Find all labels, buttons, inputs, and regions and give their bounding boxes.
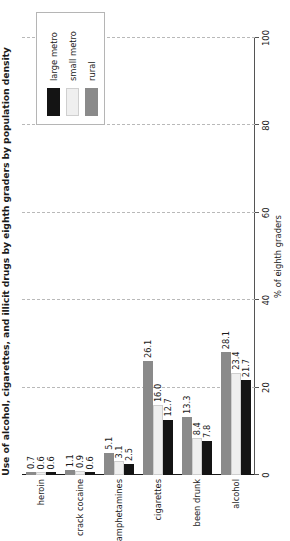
legend-item-small-metro: small metro [63,21,82,116]
legend-swatch-icon-large-metro [47,88,60,116]
axis-tick-mark [255,387,259,388]
legend-item-large-metro: large metro [44,21,63,116]
bar-value-label: 5.1 [105,437,113,450]
bar-value-label: 12.7 [164,398,172,416]
axis-tick-label: 0 [261,472,271,477]
axis-tick-label: 100 [261,30,271,46]
bar-value-label: 13.3 [183,396,191,414]
category-label-crack-cocaine: crack cocaine [75,479,85,536]
bar-value-label: 0.6 [86,456,94,469]
bar-alcohol-rural [221,352,231,475]
axis-tick-mark [255,37,259,38]
chart-title: Use of alcohol, cigarettes, and illicit … [0,0,11,523]
axis-tick-label: 40 [261,295,271,306]
bar-value-label: 28.1 [221,331,229,349]
bar-value-label: 0.6 [47,456,55,469]
bar-been-drunk-large-metro [202,441,212,475]
bar-value-label: 2.5 [125,448,133,461]
axis-tick-mark [255,212,259,213]
gridline [22,299,255,300]
bar-amphetamines-large-metro [124,464,134,475]
category-label-cigarettes: cigarettes [153,479,163,520]
bar-value-label: 26.1 [144,340,152,358]
bar-crack-cocaine-large-metro [85,472,95,475]
category-axis: alcoholbeen drunkcigarettesamphetaminesc… [22,479,255,523]
axis-tick-mark [255,124,259,125]
legend-item-rural: rural [82,21,101,116]
legend-label-small-metro: small metro [68,31,78,81]
bar-heroin-small-metro [36,472,46,475]
legend-label-large-metro: large metro [49,32,59,81]
axis-tick-label: 20 [261,382,271,393]
bar-value-label: 0.9 [76,455,84,468]
bar-cigarettes-rural [143,361,153,475]
bar-amphetamines-rural [104,453,114,475]
bar-crack-cocaine-rural [65,470,75,475]
bar-been-drunk-small-metro [192,438,202,475]
bar-amphetamines-small-metro [114,461,124,475]
bar-been-drunk-rural [182,417,192,475]
legend-swatch-icon-small-metro [66,88,79,116]
category-label-been-drunk: been drunk [192,479,202,526]
category-label-alcohol: alcohol [231,479,241,509]
legend-label-rural: rural [87,61,97,81]
legend-swatch-icon-rural [85,88,98,116]
bar-value-label: 3.1 [115,445,123,458]
bar-value-label: 16.0 [154,384,162,402]
value-axis: % of eighth graders 020406080100 [255,38,289,475]
category-label-amphetamines: amphetamines [114,479,124,541]
chart-legend: large metro small metro rural [36,12,105,125]
bar-heroin-large-metro [46,472,56,475]
bar-value-label: 0.6 [37,456,45,469]
bar-alcohol-large-metro [241,380,251,475]
bar-value-label: 1.1 [66,454,74,467]
category-label-heroin: heroin [36,479,46,505]
bar-value-label: 0.7 [27,456,35,469]
axis-tick-mark [255,299,259,300]
bar-crack-cocaine-small-metro [75,471,85,475]
bar-cigarettes-large-metro [163,420,173,475]
gridline [22,212,255,213]
bar-cigarettes-small-metro [153,405,163,475]
bar-alcohol-small-metro [231,373,241,475]
axis-tick-label: 80 [261,120,271,131]
bar-value-label: 8.4 [193,422,201,435]
axis-tick-label: 60 [261,207,271,218]
bar-value-label: 23.4 [231,352,239,370]
bar-value-label: 21.7 [241,359,249,377]
value-axis-title: % of eighth graders [273,38,283,475]
axis-tick-mark [255,474,259,475]
bar-heroin-rural [26,472,36,475]
bar-value-label: 7.8 [203,425,211,438]
